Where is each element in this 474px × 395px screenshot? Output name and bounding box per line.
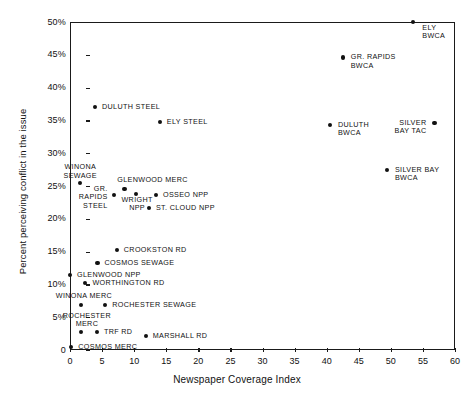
x-tick-label: 55 bbox=[411, 356, 435, 366]
data-point-label: MARSHALL RD bbox=[153, 332, 208, 340]
y-tick-mark bbox=[86, 120, 90, 121]
y-axis-title: Percent perceiving conflict in the issue bbox=[17, 77, 28, 307]
data-point-label: WORTHINGTON RD bbox=[92, 279, 164, 287]
x-tick-mark bbox=[455, 348, 456, 352]
y-tick-label: 35% bbox=[24, 116, 66, 125]
x-tick-mark bbox=[391, 348, 392, 352]
x-tick-mark bbox=[327, 348, 328, 352]
y-tick-label: 25% bbox=[24, 182, 66, 191]
data-point-label: CROOKSTON RD bbox=[124, 246, 187, 254]
x-tick-label: 40 bbox=[315, 356, 339, 366]
y-tick-mark bbox=[86, 219, 90, 220]
x-axis-title: Newspaper Coverage Index bbox=[0, 374, 474, 385]
x-tick-mark bbox=[198, 348, 199, 352]
data-point bbox=[112, 193, 116, 197]
data-point-label: DULUTH BWCA bbox=[338, 121, 369, 137]
x-tick-label: 50 bbox=[379, 356, 403, 366]
data-point bbox=[93, 105, 97, 109]
data-point bbox=[328, 123, 332, 127]
data-point-label: SILVER BAY BWCA bbox=[395, 166, 439, 182]
data-point bbox=[95, 261, 99, 265]
y-tick-label: 30% bbox=[24, 149, 66, 158]
x-tick-label: 0 bbox=[58, 356, 82, 366]
x-tick-mark bbox=[295, 348, 296, 352]
y-tick-mark bbox=[86, 55, 90, 56]
data-point bbox=[158, 120, 162, 124]
data-point-label: TRF RD bbox=[104, 328, 132, 336]
y-tick-label: 40% bbox=[24, 83, 66, 92]
x-tick-label: 60 bbox=[443, 356, 467, 366]
data-point-label: ST. CLOUD NPP bbox=[156, 204, 215, 212]
data-point bbox=[115, 248, 119, 252]
x-tick-label: 35 bbox=[283, 356, 307, 366]
y-tick-label: 45% bbox=[24, 50, 66, 59]
data-point-label: COSMOS MERC bbox=[78, 343, 137, 351]
data-point bbox=[79, 330, 83, 334]
data-point-label: ELY BWCA bbox=[422, 24, 445, 40]
x-tick-mark bbox=[166, 348, 167, 352]
y-tick-mark bbox=[86, 22, 90, 23]
scatter-chart: 05%10%15%20%25%30%35%40%45%50% 051015202… bbox=[0, 0, 474, 395]
x-tick-label: 15 bbox=[154, 356, 178, 366]
x-tick-mark bbox=[423, 348, 424, 352]
y-tick-mark bbox=[86, 88, 90, 89]
data-point-label: SILVER BAY TAC bbox=[395, 119, 427, 135]
data-point-label: ROCHESTER MERC bbox=[63, 312, 111, 328]
data-point-label: ROCHESTER SEWAGE bbox=[112, 301, 196, 309]
x-tick-label: 5 bbox=[90, 356, 114, 366]
data-point-label: WRIGHT NPP bbox=[121, 196, 152, 212]
y-tick-mark bbox=[86, 153, 90, 154]
data-point bbox=[432, 121, 436, 125]
y-tick-label: 15% bbox=[24, 247, 66, 256]
y-tick-mark bbox=[86, 252, 90, 253]
y-tick-label: 10% bbox=[24, 280, 66, 289]
data-point bbox=[95, 330, 99, 334]
data-point bbox=[341, 55, 345, 59]
x-tick-label: 10 bbox=[122, 356, 146, 366]
x-tick-mark bbox=[263, 348, 264, 352]
x-tick-mark bbox=[359, 348, 360, 352]
x-tick-label: 30 bbox=[251, 356, 275, 366]
y-tick-label: 20% bbox=[24, 214, 66, 223]
data-point-label: DULUTH STEEL bbox=[102, 103, 160, 111]
data-point-label: COSMOS SEWAGE bbox=[105, 259, 175, 267]
x-tick-label: 20 bbox=[186, 356, 210, 366]
y-tick-mark bbox=[86, 284, 90, 285]
x-tick-label: 25 bbox=[218, 356, 242, 366]
data-point-label: OSSEO NPP bbox=[163, 191, 209, 199]
data-point bbox=[147, 206, 151, 210]
x-axis-ticks: 051015202530354045505560 bbox=[0, 352, 474, 372]
x-tick-mark bbox=[230, 348, 231, 352]
data-point-label: GR. RAPIDS BWCA bbox=[351, 53, 396, 69]
data-point-label: ELY STEEL bbox=[167, 118, 208, 126]
data-point-label: WINONA MERC bbox=[56, 292, 112, 300]
y-tick-label: 50% bbox=[24, 18, 66, 27]
x-tick-label: 45 bbox=[347, 356, 371, 366]
data-point-label: GR. RAPIDS STEEL bbox=[79, 185, 108, 210]
data-point-label: GLENWOOD MERC bbox=[117, 176, 187, 184]
data-point-label: WINONA SEWAGE bbox=[64, 163, 97, 179]
y-tick-label: 5% bbox=[24, 313, 66, 322]
data-point bbox=[122, 187, 126, 191]
